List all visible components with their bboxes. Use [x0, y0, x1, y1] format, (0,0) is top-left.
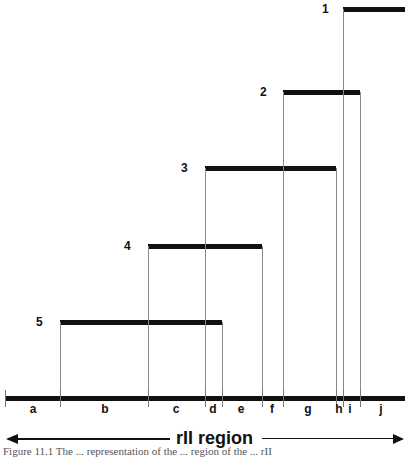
deletion-bar-1 [343, 7, 405, 12]
segment-boundary-tick [283, 390, 284, 407]
deletion-1-start-line [343, 9, 344, 396]
segment-boundary-tick [262, 390, 263, 407]
deletion-bar-2 [283, 90, 360, 95]
figure-caption: Figure 11.1 The ... representation of th… [3, 446, 272, 457]
segment-label-e: e [238, 403, 245, 415]
arrow-line-left [14, 438, 170, 440]
segment-label-h: h [335, 403, 342, 415]
segment-boundary-tick [60, 390, 61, 407]
segment-boundary-tick [222, 390, 223, 407]
segment-boundary-tick [205, 390, 206, 407]
segment-label-g: g [304, 403, 311, 415]
deletion-label-2: 2 [260, 86, 267, 98]
deletion-bar-3 [205, 166, 336, 171]
segment-label-i: i [348, 403, 351, 415]
deletion-2-end-line [360, 92, 361, 396]
deletion-4-end-line [262, 246, 263, 396]
segment-label-a: a [30, 403, 37, 415]
deletion-label-5: 5 [36, 316, 43, 328]
deletion-2-start-line [283, 92, 284, 396]
deletion-5-end-line [222, 322, 223, 396]
segment-label-f: f [270, 403, 274, 415]
deletion-label-4: 4 [124, 240, 131, 252]
deletion-bar-5 [60, 320, 222, 325]
deletion-label-1: 1 [322, 3, 329, 15]
deletion-3-start-line [205, 168, 206, 396]
segment-boundary-tick [360, 390, 361, 407]
deletion-3-end-line [336, 168, 337, 396]
segment-boundary-tick [343, 390, 344, 407]
segment-boundary-tick [148, 390, 149, 407]
segment-label-d: d [209, 403, 216, 415]
arrow-line-right [262, 438, 394, 439]
segment-label-c: c [173, 403, 180, 415]
deletion-4-start-line [148, 246, 149, 396]
segment-label-j: j [379, 403, 382, 415]
arrow-right-icon [393, 434, 404, 444]
segment-boundary-tick [5, 390, 6, 407]
deletion-5-start-line [60, 322, 61, 396]
segment-label-b: b [101, 403, 108, 415]
deletion-label-3: 3 [181, 162, 188, 174]
